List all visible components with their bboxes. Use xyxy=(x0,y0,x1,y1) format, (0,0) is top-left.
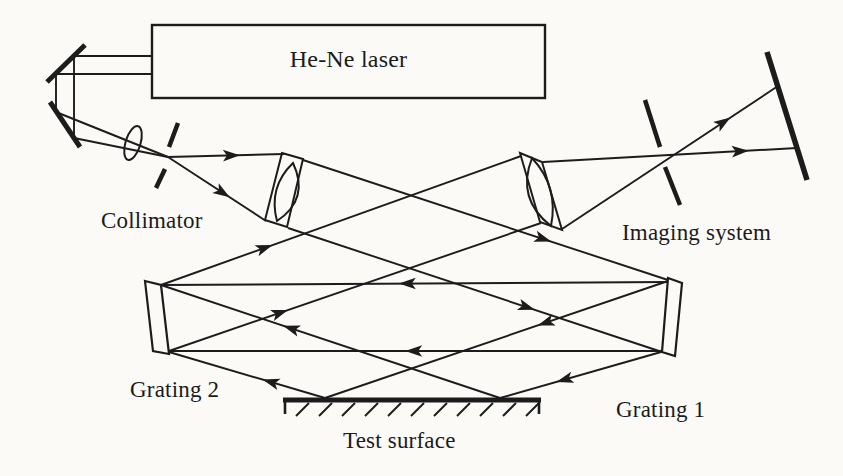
pinhole-to-lens-lower-arrowhead xyxy=(212,183,233,202)
pinhole-to-lens-upper-ray xyxy=(168,154,284,157)
imaging-lens-to-screen-steep-arrowhead xyxy=(713,113,734,132)
imaging-lens-to-screen-steep-ray xyxy=(562,86,778,229)
grating1-label: Grating 1 xyxy=(616,398,705,422)
test-surface-label: Test surface xyxy=(343,429,456,453)
pinhole-aperture-top xyxy=(169,123,178,147)
test-surface-to-grating2-arrowhead xyxy=(281,320,301,336)
test-surface-hatching xyxy=(296,403,309,416)
collimator-label: Collimator xyxy=(101,209,203,233)
pinhole-aperture-bottom xyxy=(156,169,165,188)
test-surface-hatching xyxy=(365,403,378,416)
test-surface-hatching xyxy=(503,403,516,416)
grating1-to-grating2-top-ray xyxy=(161,282,667,285)
collimated-to-grating1-top-arrowhead xyxy=(533,231,553,247)
collimated-to-grating1-top-ray xyxy=(303,160,668,280)
laser-label: He-Ne laser xyxy=(152,47,545,72)
test-surface-hatching xyxy=(434,403,447,416)
image-plane-screen xyxy=(767,52,807,180)
test-surface-hatching xyxy=(480,403,493,416)
test-surface-hatching xyxy=(388,403,401,416)
test-surface-hatching xyxy=(319,403,332,416)
grating2-to-imaging-lens-top-arrowhead xyxy=(255,240,275,257)
grating1-to-test-surface-2-ray xyxy=(500,352,661,398)
collimated-to-grating1-bot-arrowhead xyxy=(517,299,537,315)
grating2-label: Grating 2 xyxy=(130,378,219,402)
grating1-to-test-surface-ray xyxy=(325,281,668,398)
imaging-system-label: Imaging system xyxy=(622,221,771,245)
grating2-to-imaging-lens-top-ray xyxy=(161,156,521,285)
optical-diagram: He-Ne laser Collimator Imaging system Gr… xyxy=(0,0,843,476)
imaging-lens-mount xyxy=(520,153,562,230)
test-surface-to-grating2-2-arrowhead xyxy=(261,374,281,390)
mirror2-to-pinhole-lower-ray xyxy=(74,138,168,157)
fold-mirror-1 xyxy=(47,45,85,82)
imaging-lens-to-screen-flat-ray xyxy=(543,148,797,162)
fold-mirror-2 xyxy=(50,102,80,147)
grating-1 xyxy=(662,278,682,356)
grating2-to-imaging-lens-bot-ray xyxy=(169,223,541,351)
grating-2 xyxy=(145,281,169,354)
grating1-to-test-surface-2-arrowhead xyxy=(555,372,575,388)
test-surface-hatching xyxy=(411,403,424,416)
test-surface-hatching xyxy=(457,403,470,416)
imaging-aperture-top xyxy=(645,100,660,147)
test-surface-hatching xyxy=(526,403,539,416)
imaging-aperture-bottom xyxy=(665,167,680,205)
test-surface-hatching xyxy=(342,403,355,416)
grating1-to-test-surface-arrowhead xyxy=(536,314,556,330)
grating2-to-imaging-lens-bot-arrowhead xyxy=(270,305,290,322)
